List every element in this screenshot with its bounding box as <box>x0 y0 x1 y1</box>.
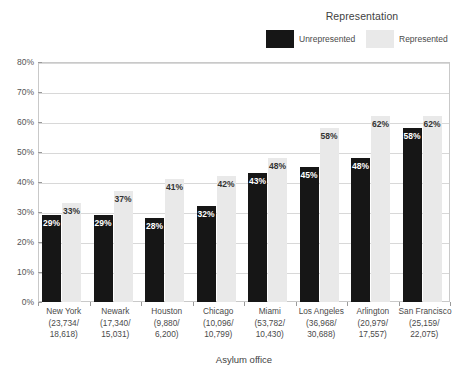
bar-group: 32%42% <box>193 62 245 302</box>
bar-represented[interactable]: 33% <box>62 203 81 302</box>
x-axis-category-counts: (23,734/ <box>38 318 90 330</box>
x-axis-category-name: San Francisco <box>399 306 451 318</box>
x-axis-category-counts: 17,557) <box>347 329 399 341</box>
y-axis-tick-label: 80% <box>4 57 34 67</box>
bar-represented[interactable]: 62% <box>423 116 442 302</box>
y-axis-tick-label: 70% <box>4 87 34 97</box>
bar-unrepresented[interactable]: 32% <box>197 206 216 302</box>
bars-layer: 29%33%29%37%28%41%32%42%43%48%45%58%48%6… <box>38 62 450 302</box>
x-axis-category-name: Chicago <box>193 306 245 318</box>
x-axis-title: Asylum office <box>38 354 450 365</box>
x-axis-tick-mark <box>141 302 142 306</box>
x-axis-tick-mark <box>296 302 297 306</box>
x-axis: New York(23,734/18,618)Newark(17,340/15,… <box>38 306 450 350</box>
bar-group: 43%48% <box>244 62 296 302</box>
bar-unrepresented[interactable]: 48% <box>351 158 370 302</box>
bar-unrepresented[interactable]: 28% <box>145 218 164 302</box>
chart-legend: Representation Unrepresented Represented <box>262 10 462 58</box>
bar-group: 48%62% <box>347 62 399 302</box>
x-axis-tick-label: Houston(9,880/6,200) <box>141 306 193 341</box>
bar-represented[interactable]: 62% <box>371 116 390 302</box>
y-axis-tick-mark <box>38 272 42 273</box>
y-axis: 0%10%20%30%40%50%60%70%80% <box>0 62 34 302</box>
bar-group: 28%41% <box>141 62 193 302</box>
bar-value-label: 29% <box>42 219 61 228</box>
bar-represented[interactable]: 41% <box>165 179 184 302</box>
bar-group: 29%33% <box>38 62 90 302</box>
bar-value-label: 62% <box>423 120 442 129</box>
x-axis-tick-mark <box>193 302 194 306</box>
x-axis-category-name: New York <box>38 306 90 318</box>
bar-represented[interactable]: 48% <box>268 158 287 302</box>
x-axis-category-counts: (20,979/ <box>347 318 399 330</box>
y-axis-tick-mark <box>38 182 42 183</box>
bar-unrepresented[interactable]: 45% <box>300 167 319 302</box>
x-axis-tick-label: Newark(17,340/15,031) <box>90 306 142 341</box>
bar-unrepresented[interactable]: 43% <box>248 173 267 302</box>
x-axis-tick-mark <box>38 302 39 306</box>
bar-value-label: 45% <box>300 171 319 180</box>
y-axis-tick-label: 50% <box>4 147 34 157</box>
bar-value-label: 43% <box>248 177 267 186</box>
y-axis-tick-mark <box>38 242 42 243</box>
x-axis-category-counts: 6,200) <box>141 329 193 341</box>
y-axis-tick-mark <box>38 152 42 153</box>
x-axis-category-counts: (53,782/ <box>244 318 296 330</box>
bar-unrepresented[interactable]: 29% <box>42 215 61 302</box>
bar-represented[interactable]: 42% <box>217 176 236 302</box>
x-axis-tick-label: Miami(53,782/10,430) <box>244 306 296 341</box>
x-axis-category-name: Miami <box>244 306 296 318</box>
legend-title: Representation <box>262 10 462 22</box>
x-axis-category-counts: (17,340/ <box>90 318 142 330</box>
bar-represented[interactable]: 58% <box>320 128 339 302</box>
x-axis-tick-mark <box>90 302 91 306</box>
x-axis-category-name: Newark <box>90 306 142 318</box>
x-axis-category-counts: 30,688) <box>296 329 348 341</box>
legend-entry-unrepresented[interactable]: Unrepresented <box>266 30 355 48</box>
bar-value-label: 58% <box>403 132 422 141</box>
bar-value-label: 28% <box>145 222 164 231</box>
x-axis-category-name: Los Angeles <box>296 306 348 318</box>
legend-label-represented: Represented <box>399 34 448 44</box>
x-axis-category-counts: (36,968/ <box>296 318 348 330</box>
y-axis-tick-label: 0% <box>4 297 34 307</box>
bar-value-label: 58% <box>320 132 339 141</box>
x-axis-category-counts: 18,618) <box>38 329 90 341</box>
y-axis-tick-label: 20% <box>4 237 34 247</box>
y-axis-tick-mark <box>38 122 42 123</box>
x-axis-tick-mark <box>347 302 348 306</box>
x-axis-tick-label: San Francisco(25,159/22,075) <box>399 306 451 341</box>
x-axis-category-counts: 22,075) <box>399 329 451 341</box>
x-axis-tick-label: New York(23,734/18,618) <box>38 306 90 341</box>
x-axis-category-counts: (9,880/ <box>141 318 193 330</box>
bar-unrepresented[interactable]: 58% <box>403 128 422 302</box>
y-axis-tick-mark <box>38 212 42 213</box>
x-axis-tick-mark <box>399 302 400 306</box>
y-axis-tick-label: 40% <box>4 177 34 187</box>
y-axis-tick-label: 10% <box>4 267 34 277</box>
x-axis-category-counts: 15,031) <box>90 329 142 341</box>
x-axis-tick-label: Chicago(10,096/10,799) <box>193 306 245 341</box>
bar-represented[interactable]: 37% <box>114 191 133 302</box>
x-axis-category-name: Houston <box>141 306 193 318</box>
bar-unrepresented[interactable]: 29% <box>94 215 113 302</box>
y-axis-tick-mark <box>38 62 42 63</box>
x-axis-category-counts: (10,096/ <box>193 318 245 330</box>
bar-group: 58%62% <box>399 62 451 302</box>
bar-value-label: 48% <box>268 162 287 171</box>
bar-group: 29%37% <box>90 62 142 302</box>
y-axis-tick-mark <box>38 92 42 93</box>
x-axis-category-name: Arlington <box>347 306 399 318</box>
x-axis-tick-mark <box>450 302 451 306</box>
x-axis-category-counts: 10,430) <box>244 329 296 341</box>
x-axis-category-counts: (25,159/ <box>399 318 451 330</box>
bar-value-label: 33% <box>62 207 81 216</box>
y-axis-tick-label: 30% <box>4 207 34 217</box>
bar-value-label: 29% <box>94 219 113 228</box>
bar-value-label: 42% <box>217 180 236 189</box>
y-axis-tick-label: 60% <box>4 117 34 127</box>
legend-swatch-unrepresented-icon <box>266 30 294 48</box>
legend-entry-represented[interactable]: Represented <box>366 30 448 48</box>
x-axis-category-counts: 10,799) <box>193 329 245 341</box>
bar-value-label: 48% <box>351 162 370 171</box>
